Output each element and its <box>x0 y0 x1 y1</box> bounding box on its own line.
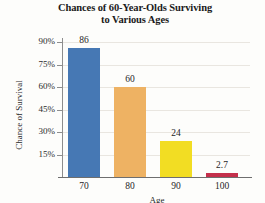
x-axis-title: Age <box>62 195 252 203</box>
y-axis-tick-label: 75% <box>15 59 55 69</box>
chart-title: Chances of 60-Year-Olds Surviving to Var… <box>40 2 230 26</box>
y-axis-tick <box>57 42 62 43</box>
bar-series: 8660242.7 <box>64 36 254 177</box>
y-axis-tick-labels: 90%75%60%45%30%15% <box>10 0 55 203</box>
x-axis-tick-label: 100 <box>202 181 242 191</box>
x-axis-line <box>58 177 252 178</box>
y-axis-tick <box>57 132 62 133</box>
chart-title-line-1: Chances of 60-Year-Olds Surviving <box>40 2 230 14</box>
bar-value-label: 60 <box>110 74 150 84</box>
y-axis-tick <box>57 87 62 88</box>
y-axis-tick <box>57 110 62 111</box>
y-axis-tick-label: 45% <box>15 104 55 114</box>
bar-chart: Chances of 60-Year-Olds Surviving to Var… <box>0 0 265 203</box>
bar[interactable] <box>114 87 146 177</box>
bar[interactable] <box>206 173 238 177</box>
bar-value-label: 24 <box>156 128 196 138</box>
y-axis-tick <box>57 155 62 156</box>
y-axis-tick <box>57 65 62 66</box>
y-axis-line <box>62 38 63 178</box>
x-axis-tick-label: 80 <box>110 181 150 191</box>
x-axis-tick-label: 90 <box>156 181 196 191</box>
bar[interactable] <box>160 141 192 177</box>
y-axis-tick-label: 30% <box>15 126 55 136</box>
chart-title-line-2: to Various Ages <box>40 14 230 26</box>
bar-value-label: 86 <box>64 35 104 45</box>
y-axis-tick-label: 60% <box>15 81 55 91</box>
x-axis-tick-label: 70 <box>64 181 104 191</box>
y-axis-tick-label: 15% <box>15 149 55 159</box>
bar-value-label: 2.7 <box>202 160 242 170</box>
y-axis-tick-label: 90% <box>15 36 55 46</box>
bar[interactable] <box>68 48 100 177</box>
